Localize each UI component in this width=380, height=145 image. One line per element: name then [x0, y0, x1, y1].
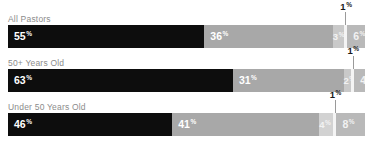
bar-segment-value: 31% — [233, 75, 257, 86]
bar-row-label: All Pastors — [8, 14, 51, 24]
bar-segment-percent-sign: % — [325, 119, 331, 126]
bar-segment-number: 31 — [239, 74, 251, 86]
bar-row-label: 50+ Years Old — [8, 58, 64, 68]
callout-leader-line — [353, 56, 354, 69]
bar-segment: 4% — [354, 69, 365, 92]
bar-segment: 41% — [172, 113, 318, 136]
bar-segment-callout-value: 1% — [340, 2, 352, 12]
bar-segment-percent-sign: % — [348, 118, 354, 125]
callout-number: 1 — [348, 45, 353, 56]
bar-segment-value: 6% — [347, 31, 365, 42]
bar-segment-value: 4% — [354, 75, 365, 86]
bar-segment-value: 46% — [8, 119, 32, 130]
bar-segment: 63% — [8, 69, 233, 92]
stacked-bar: 63%31%2%4% — [8, 69, 365, 92]
callout-leader-line — [345, 12, 346, 25]
bar-segment: 2% — [344, 69, 351, 92]
bar-segment-percent-sign: % — [190, 118, 196, 125]
bar-segment-callout-value: 1% — [330, 90, 342, 100]
bar-segment-value: 63% — [8, 75, 32, 86]
callout-number: 1 — [340, 1, 345, 12]
bar-segment-percent-sign: % — [359, 30, 365, 37]
bar-segment-number: 55 — [14, 30, 26, 42]
bar-segment-number: 46 — [14, 118, 26, 130]
bar-segment: 46% — [8, 113, 172, 136]
bar-segment: 36% — [204, 25, 333, 48]
bar-segment: 55% — [8, 25, 204, 48]
bar-segment-percent-sign: % — [26, 30, 32, 37]
bar-segment-value: 8% — [336, 119, 354, 130]
bar-segment-number: 41 — [178, 118, 190, 130]
stacked-bar-chart: All Pastors55%36%3%6%1%50+ Years Old63%3… — [0, 0, 380, 145]
bar-segment-number: 36 — [210, 30, 222, 42]
bar-segment-value: 36% — [204, 31, 228, 42]
callout-percent-sign: % — [346, 1, 352, 8]
bar-segment-number: 4 — [360, 74, 365, 86]
bar-segment: 8% — [336, 113, 365, 136]
callout-leader-line — [335, 100, 336, 113]
stacked-bar: 55%36%3%6% — [8, 25, 365, 48]
bar-segment-percent-sign: % — [26, 74, 32, 81]
bar-segment-value: 55% — [8, 31, 32, 42]
bar-row-label: Under 50 Years Old — [8, 102, 86, 112]
callout-percent-sign: % — [353, 45, 359, 52]
bar-segment: 3% — [333, 25, 344, 48]
bar-segment: 31% — [233, 69, 344, 92]
bar-segment: 4% — [319, 113, 333, 136]
bar-segment-percent-sign: % — [222, 30, 228, 37]
callout-percent-sign: % — [335, 89, 341, 96]
bar-segment-percent-sign: % — [26, 118, 32, 125]
bar-segment-value: 4% — [319, 120, 333, 130]
stacked-bar: 46%41%4%8% — [8, 113, 365, 136]
bar-segment-number: 63 — [14, 74, 26, 86]
bar-segment-percent-sign: % — [251, 74, 257, 81]
bar-segment-value: 41% — [172, 119, 196, 130]
bar-segment-callout-value: 1% — [348, 46, 360, 56]
bar-segment-number: 4 — [319, 119, 324, 130]
